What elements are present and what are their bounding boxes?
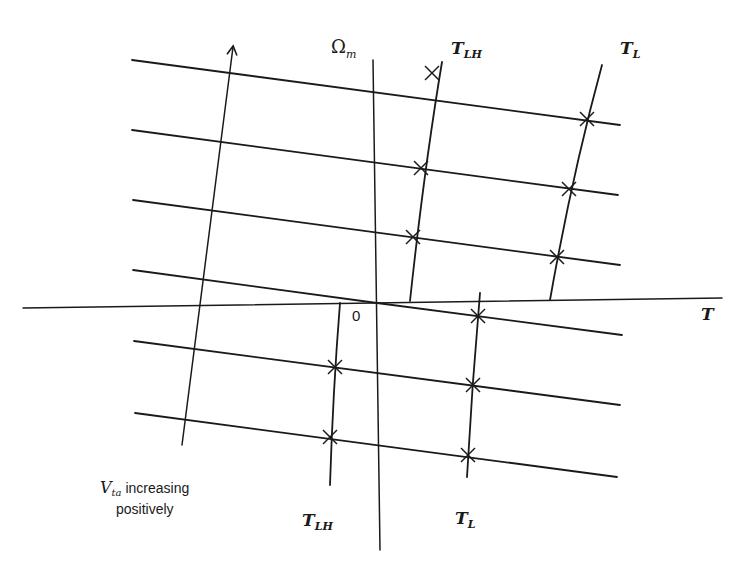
t-symbol: T	[455, 508, 468, 528]
intersection-markers	[323, 66, 594, 462]
speed-torque-lines	[132, 60, 622, 477]
vta-symbol: Vta	[100, 478, 122, 497]
torque-axis-label: T	[701, 306, 714, 323]
load-torque-curves	[330, 62, 602, 485]
omega-subscript: m	[346, 48, 356, 61]
increasing-text: increasing	[122, 480, 190, 496]
t-l-upper-label: TL	[620, 40, 640, 60]
origin-zero: 0	[352, 307, 360, 324]
vta-increasing-arrow	[182, 47, 233, 445]
origin-label: 0	[352, 308, 360, 323]
omega-m-axis	[373, 60, 380, 550]
omega-m-axis-label: Ωm	[331, 38, 356, 60]
speed-torque-line-6	[135, 413, 617, 477]
t-symbol: T	[302, 510, 315, 530]
ta-subscript: ta	[112, 487, 122, 498]
t-l-lower-label: TL	[455, 510, 475, 530]
l-subscript: L	[468, 518, 476, 531]
t-symbol: T	[620, 38, 633, 58]
speed-torque-line-1	[132, 60, 620, 125]
speed-torque-line-origin	[377, 303, 622, 335]
t-symbol: T	[451, 38, 464, 58]
x-mark-icon	[323, 430, 337, 444]
speed-torque-line-4	[133, 270, 377, 303]
v-symbol: V	[100, 478, 112, 497]
l-subscript: L	[633, 48, 641, 61]
lh-subscript: LH	[315, 520, 333, 533]
t-lh-lower-label: TLH	[302, 512, 333, 532]
t-lh-lower-curve	[330, 303, 340, 485]
lh-subscript: LH	[464, 48, 482, 61]
omega-symbol: Ω	[331, 36, 346, 57]
x-mark-icon	[425, 66, 439, 80]
vta-increasing-annotation: Vta increasing positively	[100, 480, 189, 517]
t-lh-upper-label: TLH	[451, 40, 482, 60]
t-axis-symbol: T	[701, 304, 714, 324]
positively-text: positively	[100, 501, 189, 517]
vta-annotation-line-1: Vta increasing	[100, 480, 189, 501]
